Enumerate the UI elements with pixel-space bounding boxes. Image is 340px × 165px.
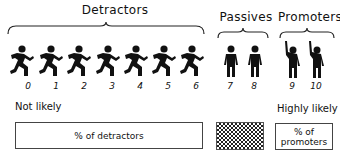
standing-person-icon <box>223 45 239 78</box>
brace-promoters <box>278 28 336 40</box>
score-7: 7 <box>223 81 237 91</box>
score-6: 6 <box>189 81 203 91</box>
promoters-percent-label-line1: % of <box>294 127 314 137</box>
passives-hatched-box <box>216 122 264 150</box>
promoters-percent-label-line2: promoters <box>281 137 327 147</box>
running-person-icon <box>37 45 65 77</box>
brace-passives <box>216 28 270 40</box>
running-person-icon <box>94 45 122 77</box>
running-person-icon <box>65 45 93 77</box>
score-9: 9 <box>285 81 299 91</box>
group-title-detractors: Detractors <box>70 3 160 17</box>
running-person-icon <box>122 45 150 77</box>
score-8: 8 <box>247 81 261 91</box>
brace-detractors <box>6 22 206 36</box>
score-10: 10 <box>309 81 323 91</box>
score-3: 3 <box>105 81 119 91</box>
hand-raised-person-icon <box>307 41 325 79</box>
group-title-promoters: Promoters <box>278 10 340 24</box>
score-2: 2 <box>77 81 91 91</box>
running-person-icon <box>150 45 178 77</box>
promoters-percent-box: % of promoters <box>275 123 333 150</box>
running-person-icon <box>178 45 206 77</box>
score-5: 5 <box>161 81 175 91</box>
hand-raised-person-icon <box>283 41 301 79</box>
standing-person-icon <box>247 45 263 78</box>
score-0: 0 <box>21 81 35 91</box>
detractors-percent-box: % of detractors <box>15 122 203 149</box>
group-title-passives: Passives <box>216 10 276 24</box>
not-likely-label: Not likely <box>15 101 62 112</box>
detractors-percent-label: % of detractors <box>74 131 143 141</box>
highly-likely-label: Highly likely <box>277 103 338 114</box>
running-person-icon <box>8 45 36 77</box>
score-4: 4 <box>133 81 147 91</box>
score-1: 1 <box>49 81 63 91</box>
